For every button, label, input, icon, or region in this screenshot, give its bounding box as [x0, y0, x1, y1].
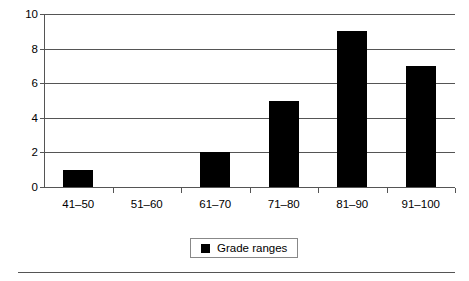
x-axis-tick-label: 81–90 — [318, 198, 387, 211]
bar — [200, 152, 230, 187]
x-axis-tick-mark — [455, 188, 456, 193]
y-axis-tick-mark — [40, 14, 45, 15]
bar — [63, 170, 93, 187]
bar — [269, 101, 299, 188]
x-axis-tick-mark — [387, 188, 388, 193]
gridline — [44, 49, 455, 50]
y-axis-labels: 0246810 — [0, 0, 38, 281]
plot-area — [44, 14, 455, 187]
y-axis-tick-label: 4 — [4, 112, 38, 123]
gridline — [44, 152, 455, 153]
bar — [406, 66, 436, 187]
y-axis-tick-label: 2 — [4, 147, 38, 158]
y-axis-tick-mark — [40, 83, 45, 84]
x-axis-tick-mark — [181, 188, 182, 193]
gridline — [44, 118, 455, 119]
x-axis-tick-label: 61–70 — [181, 198, 250, 211]
bar — [337, 31, 367, 187]
y-axis-tick-label: 6 — [4, 78, 38, 89]
gridline — [44, 14, 455, 15]
bar-chart-figure: 0246810 Grade ranges 41–5051–6061–7071–8… — [0, 0, 469, 281]
x-axis-tick-label: 71–80 — [250, 198, 319, 211]
x-axis-tick-label: 91–100 — [387, 198, 456, 211]
x-axis-tick-mark — [318, 188, 319, 193]
y-axis-tick-mark — [40, 152, 45, 153]
y-axis-tick-label: 10 — [4, 9, 38, 20]
chart-legend: Grade ranges — [190, 238, 298, 258]
y-axis-tick-label: 0 — [4, 182, 38, 193]
x-axis-tick-label: 51–60 — [113, 198, 182, 211]
y-axis-tick-label: 8 — [4, 43, 38, 54]
x-axis-tick-mark — [113, 188, 114, 193]
gridline — [44, 83, 455, 84]
legend-swatch-icon — [201, 244, 210, 253]
y-axis-tick-mark — [40, 187, 45, 188]
legend-label: Grade ranges — [217, 242, 287, 254]
x-axis-tick-mark — [250, 188, 251, 193]
y-axis-tick-mark — [40, 118, 45, 119]
y-axis-tick-mark — [40, 49, 45, 50]
x-axis-tick-label: 41–50 — [44, 198, 113, 211]
bottom-divider — [18, 272, 455, 273]
